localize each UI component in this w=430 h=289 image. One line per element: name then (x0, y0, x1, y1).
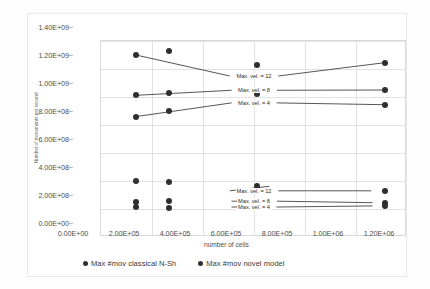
y-tick-mark (69, 83, 73, 84)
figure-canvas: Number of movements per second Max. vel.… (0, 0, 430, 289)
y-tick-label: 6.00E+08 (27, 135, 69, 144)
leader-line (276, 103, 384, 105)
chart-legend: Max #mov classical N-ShMax #mov novel mo… (83, 259, 284, 268)
leader-line (136, 103, 232, 117)
leader-line (136, 90, 232, 95)
legend-marker-icon (198, 261, 203, 266)
max-velocity-annotation: Max. vel. = 12 (236, 73, 273, 79)
y-axis-title: Number of movements per second (34, 93, 39, 163)
max-velocity-annotation: Max. vel. = 4 (237, 100, 271, 106)
legend-item[interactable]: Max #mov classical N-Sh (83, 259, 176, 268)
y-tick-label: 2.00E+08 (27, 191, 69, 200)
y-tick-label: 0.00E+00 (27, 219, 69, 228)
leader-line (278, 63, 384, 76)
y-tick-mark (69, 167, 73, 168)
max-velocity-annotation: Max. vel. = 4 (237, 204, 271, 210)
leader-line (277, 201, 373, 203)
max-velocity-annotation: Max. vel. = 8 (237, 87, 271, 93)
y-tick-mark (69, 55, 73, 56)
y-tick-label: 1.20E+09 (27, 51, 69, 60)
y-tick-mark (69, 223, 73, 224)
y-tick-mark (69, 195, 73, 196)
y-tick-mark (69, 111, 73, 112)
legend-marker-icon (83, 261, 88, 266)
legend-label: Max #mov novel model (206, 259, 284, 268)
legend-item[interactable]: Max #mov novel model (198, 259, 284, 268)
max-velocity-annotation: Max. vel. = 12 (236, 188, 273, 194)
plot-area: Max. vel. = 12Max. vel. = 8Max. vel. = 4… (100, 40, 406, 236)
y-tick-label: 8.00E+08 (27, 107, 69, 116)
chart-container: Number of movements per second Max. vel.… (27, 13, 407, 277)
y-tick-mark (69, 27, 73, 28)
y-tick-label: 1.00E+09 (27, 79, 69, 88)
leader-line (276, 206, 372, 207)
y-tick-mark (69, 139, 73, 140)
leader-line (136, 55, 230, 76)
x-axis-title: number of cells (204, 241, 249, 248)
y-tick-label: 1.40E+09 (27, 23, 69, 32)
legend-label: Max #mov classical N-Sh (91, 259, 176, 268)
y-tick-label: 4.00E+08 (27, 163, 69, 172)
